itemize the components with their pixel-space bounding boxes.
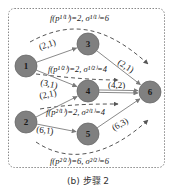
flow-label-p2-2: f(p²⁽²⁾)=6, σ²⁽²⁾=6: [50, 156, 110, 166]
figure-caption: (b) 步骤 2: [0, 174, 176, 187]
node-label: 4: [86, 86, 91, 96]
edge-label-5-6: (6,3): [110, 115, 130, 132]
edge-label-1-3: (2,1): [38, 37, 57, 52]
edge-label-4-6: (4,2): [108, 80, 125, 90]
flow-label-p1-2: f(p¹⁽²⁾)=2, σ¹⁽²⁾=4: [48, 64, 108, 74]
node-label: 5: [86, 129, 91, 139]
node-label: 2: [24, 117, 29, 127]
node-label: 3: [86, 39, 91, 49]
node-3: 3: [77, 33, 99, 55]
network-diagram: 123456 (2,1)(3,1)(2,1)(6,1)(2,1)(4,2)(6,…: [0, 0, 176, 172]
node-label: 1: [24, 61, 29, 71]
node-4: 4: [77, 80, 99, 102]
edge-label-2-5: (6,1): [36, 124, 54, 136]
edge-4-6: [99, 92, 138, 93]
flow-label-p1-1: f(p¹⁽¹⁾)=2, σ¹⁽¹⁾=6: [50, 13, 110, 23]
node-6: 6: [139, 81, 161, 103]
edge-label-3-6: (2,1): [116, 57, 136, 75]
node-5: 5: [77, 123, 99, 145]
node-label: 6: [148, 87, 153, 97]
node-1: 1: [15, 55, 37, 77]
edge-label-2-4: (2,1): [38, 88, 57, 101]
edge-4-6: [99, 90, 138, 91]
node-2: 2: [15, 111, 37, 133]
flow-label-p2-1: f(p²⁽¹⁾)=2, σ²⁽¹⁾=4: [46, 107, 106, 117]
